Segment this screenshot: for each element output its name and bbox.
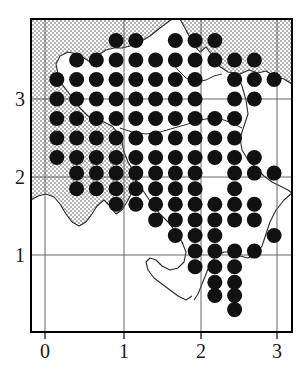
dot-marker [168, 72, 183, 87]
dot-marker [69, 53, 84, 68]
dot-marker [69, 150, 84, 165]
dot-marker [188, 212, 203, 227]
dot-marker [109, 33, 124, 48]
dot-marker [128, 197, 143, 212]
dot-marker [89, 53, 104, 68]
dot-marker [227, 212, 242, 227]
dot-marker [188, 131, 203, 146]
dot-marker [148, 53, 163, 68]
dot-marker [128, 33, 143, 48]
axis-ticks [45, 332, 277, 339]
dot-marker [148, 131, 163, 146]
dot-marker [207, 53, 222, 68]
dot-marker [168, 92, 183, 107]
dot-marker [227, 53, 242, 68]
dot-marker [247, 197, 262, 212]
dot-marker [227, 259, 242, 274]
dot-marker [109, 53, 124, 68]
dot-marker [109, 92, 124, 107]
dot-marker [89, 131, 104, 146]
dot-marker [109, 72, 124, 87]
dot-marker [109, 131, 124, 146]
x-tick-label-2: 2 [191, 341, 211, 361]
dot-marker [227, 244, 242, 259]
dot-marker [227, 92, 242, 107]
dot-marker [168, 228, 183, 243]
dot-marker [188, 33, 203, 48]
dot-marker [247, 166, 262, 181]
dot-marker [148, 181, 163, 196]
dot-marker [188, 53, 203, 68]
dot-marker [128, 131, 143, 146]
dot-marker [168, 150, 183, 165]
dot-marker [148, 92, 163, 107]
dot-marker [168, 53, 183, 68]
dot-marker [109, 197, 124, 212]
x-tick-label-3: 3 [267, 341, 287, 361]
dot-marker [168, 131, 183, 146]
dot-marker [168, 111, 183, 126]
dot-marker [168, 181, 183, 196]
dot-marker [227, 197, 242, 212]
y-tick-label-3: 3 [5, 89, 25, 109]
dot-marker [109, 181, 124, 196]
dot-marker [247, 150, 262, 165]
dot-marker [247, 212, 262, 227]
dot-marker [109, 150, 124, 165]
figure-container: 0 1 2 3 1 2 3 [0, 0, 307, 372]
dot-marker [207, 150, 222, 165]
dot-marker [49, 111, 64, 126]
dot-marker [207, 259, 222, 274]
dot-marker [227, 288, 242, 303]
dot-marker [207, 131, 222, 146]
dot-marker [89, 72, 104, 87]
dot-marker [247, 92, 262, 107]
dot-marker [227, 72, 242, 87]
dot-marker [207, 111, 222, 126]
dot-marker [49, 131, 64, 146]
dot-marker [227, 302, 242, 317]
dot-marker [148, 212, 163, 227]
dot-marker [168, 166, 183, 181]
dot-marker [188, 197, 203, 212]
dot-marker [49, 72, 64, 87]
dot-marker [267, 72, 282, 87]
dot-marker [247, 72, 262, 87]
dot-marker [69, 111, 84, 126]
dot-marker [109, 111, 124, 126]
dot-marker [128, 166, 143, 181]
dot-marker [128, 111, 143, 126]
dot-marker [207, 33, 222, 48]
dot-marker [69, 131, 84, 146]
y-tick-label-1: 1 [5, 245, 25, 265]
dot-marker [148, 150, 163, 165]
dot-marker [49, 150, 64, 165]
x-tick-label-1: 1 [114, 341, 134, 361]
dot-marker [128, 150, 143, 165]
dot-marker [227, 131, 242, 146]
dot-marker [207, 244, 222, 259]
dot-marker [148, 111, 163, 126]
dot-marker [128, 53, 143, 68]
dot-marker [207, 197, 222, 212]
dot-marker [69, 166, 84, 181]
distribution-map-plot [0, 0, 307, 372]
x-tick-label-0: 0 [35, 341, 55, 361]
dot-marker [188, 150, 203, 165]
dot-marker [188, 166, 203, 181]
dot-marker [128, 181, 143, 196]
dot-marker [207, 212, 222, 227]
dot-marker [207, 275, 222, 290]
dot-marker [227, 111, 242, 126]
dot-marker [109, 166, 124, 181]
y-tick-label-2: 2 [5, 167, 25, 187]
dot-marker [188, 72, 203, 87]
dot-marker [168, 212, 183, 227]
dot-marker [207, 288, 222, 303]
dot-marker [247, 53, 262, 68]
dot-marker [188, 244, 203, 259]
dot-marker [227, 150, 242, 165]
dot-marker [188, 259, 203, 274]
dot-marker [188, 111, 203, 126]
dot-marker [89, 166, 104, 181]
